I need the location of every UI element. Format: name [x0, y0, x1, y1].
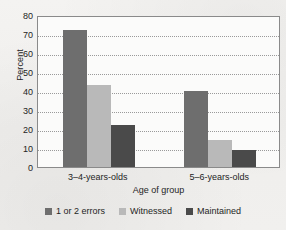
bar-1-2 — [87, 85, 111, 167]
bar-1-1 — [63, 30, 87, 167]
legend-label-3: Maintained — [197, 206, 241, 216]
legend-swatch-icon-3 — [186, 208, 193, 215]
chart-legend: 1 or 2 errorsWitnessedMaintained — [0, 206, 286, 216]
legend-swatch-icon-2 — [119, 208, 126, 215]
legend-label-1: 1 or 2 errors — [56, 206, 105, 216]
chart-figure: Percent 80706050403020100 3–4-years-olds… — [0, 0, 286, 230]
legend-item-2: Witnessed — [119, 206, 172, 216]
x-axis-title: Age of group — [37, 185, 280, 195]
y-tick-60: 60 — [9, 50, 33, 59]
legend-label-2: Witnessed — [130, 206, 172, 216]
y-tick-50: 50 — [9, 69, 33, 78]
legend-swatch-icon-1 — [45, 208, 52, 215]
plot-area — [37, 16, 280, 168]
y-axis-tick-labels: 80706050403020100 — [9, 16, 33, 168]
y-tick-40: 40 — [9, 88, 33, 97]
x-tick-1: 3–4-years-olds — [68, 172, 128, 182]
bar-2-2 — [208, 140, 232, 167]
y-tick-20: 20 — [9, 126, 33, 135]
y-tick-70: 70 — [9, 31, 33, 40]
legend-item-3: Maintained — [186, 206, 241, 216]
y-tick-10: 10 — [9, 145, 33, 154]
bar-2-1 — [184, 91, 208, 167]
x-axis-tick-labels: 3–4-years-olds5–6-years-olds — [37, 172, 280, 186]
bar-2-3 — [232, 150, 256, 167]
x-tick-2: 5–6-years-olds — [189, 172, 249, 182]
y-tick-80: 80 — [9, 12, 33, 21]
y-tick-0: 0 — [9, 164, 33, 173]
legend-item-1: 1 or 2 errors — [45, 206, 105, 216]
bar-1-3 — [111, 125, 135, 167]
y-tick-30: 30 — [9, 107, 33, 116]
